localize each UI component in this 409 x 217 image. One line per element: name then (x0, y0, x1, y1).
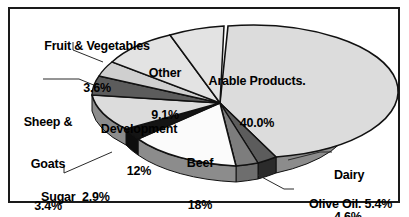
label-beef-value: 18% (174, 198, 226, 212)
label-arable-name: Arable Products. (196, 74, 318, 88)
label-other-name: Other (135, 66, 195, 80)
label-beef-name: Beef (174, 156, 226, 170)
label-sheep-name-line2: Goats (6, 157, 90, 171)
label-dairy-name: Dairy (334, 168, 364, 182)
label-sheep-name-line1: Sheep & (6, 115, 90, 129)
label-beef: Beef 18% (174, 128, 226, 217)
pie-chart-figure: Fruit & Vegetables 3.6% Sheep & Goats 3.… (0, 0, 409, 217)
label-olive-oil: Olive Oil. 5.4% (296, 183, 392, 217)
label-olive-text: Olive Oil. 5.4% (309, 197, 392, 211)
